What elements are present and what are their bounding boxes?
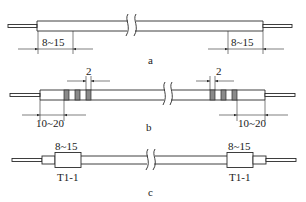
insulation-tube	[37, 21, 128, 31]
wire-core-left	[10, 94, 40, 97]
band-spacing-label-right: 2	[216, 66, 222, 77]
wire-marking-diagram: 8~15 8~15 a 2 2 10~20 10~20 b 8~15 8~15 …	[0, 0, 306, 202]
sleeve-marking-right: T1-1	[229, 172, 250, 183]
caption-a: a	[148, 55, 153, 66]
wire-core-right	[266, 159, 296, 162]
dimension-label-b-left: 10~20	[36, 118, 64, 129]
sleeve-collar-right	[253, 156, 266, 164]
dimension-label-a-left: 8~15	[42, 37, 64, 48]
sleeve-length-label-right: 8~15	[228, 141, 250, 152]
marking-bands-right	[210, 90, 237, 100]
wire-core-left	[12, 159, 42, 162]
marker-sleeve-left	[55, 153, 81, 168]
break-mark	[126, 14, 136, 36]
band-spacing-label-left: 2	[86, 66, 92, 77]
break-mark	[163, 82, 172, 105]
insulation-tube	[40, 90, 165, 100]
sleeve-marking-left: T1-1	[57, 172, 78, 183]
sleeve-length-label-left: 8~15	[55, 141, 77, 152]
diagram-b	[10, 76, 295, 121]
wire-core-right	[265, 94, 295, 97]
caption-c: c	[148, 187, 153, 198]
diagram-c	[12, 149, 296, 170]
diagram-a	[8, 14, 292, 54]
wire-core-right	[263, 25, 292, 28]
wire-core-left	[8, 25, 37, 28]
marker-sleeve-right	[227, 153, 253, 168]
caption-b: b	[146, 122, 152, 133]
dimension-label-b-right: 10~20	[238, 118, 266, 129]
marking-bands-left	[64, 90, 91, 100]
sleeve-collar-left	[42, 156, 55, 164]
break-mark	[146, 149, 155, 170]
insulation-tube	[81, 156, 148, 164]
dimension-label-a-right: 8~15	[231, 37, 253, 48]
